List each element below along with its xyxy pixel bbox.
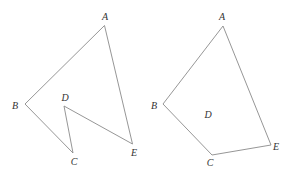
quadrilateral-outline [163,26,271,155]
geometry-diagram: A B C D E A B C D E [0,0,288,175]
vertex-label-b: B [12,100,18,111]
vertex-label-d: D [60,92,69,103]
vertex-label-c: C [71,156,78,167]
figure-right-convex-quadrilateral: A B C D E [151,11,279,168]
vertex-label-b: B [151,100,157,111]
vertex-label-e: E [130,147,137,158]
vertex-label-a: A [101,11,109,22]
interior-point-label-d: D [203,109,212,120]
figure-left-concave-pentagon: A B C D E [12,11,137,167]
vertex-label-a: A [218,11,226,22]
vertex-label-e: E [272,141,279,152]
vertex-label-c: C [207,157,214,168]
pentagon-outline [25,26,133,154]
